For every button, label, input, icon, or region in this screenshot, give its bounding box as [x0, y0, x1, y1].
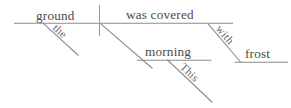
- word-was-covered: was covered: [126, 7, 194, 22]
- word-the: the: [51, 21, 70, 40]
- word-morning: morning: [145, 44, 191, 59]
- slanted-word-the-group: the: [51, 21, 70, 40]
- sentence-diagram: ground was covered morning frost the Thi…: [0, 0, 291, 108]
- word-frost: frost: [245, 46, 270, 61]
- diagram-canvas: ground was covered morning frost the Thi…: [0, 0, 291, 108]
- word-ground: ground: [36, 8, 75, 23]
